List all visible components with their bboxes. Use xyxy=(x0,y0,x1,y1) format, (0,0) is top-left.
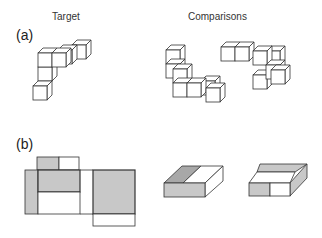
comparison-1-box xyxy=(164,166,223,197)
comparison-2-cube-figure xyxy=(221,42,290,89)
comparison-2-box xyxy=(249,164,307,196)
comparison-1-cube-figure xyxy=(166,45,225,102)
unfolded-net xyxy=(25,157,135,226)
figure-canvas xyxy=(0,0,322,238)
target-cube-figure xyxy=(33,40,91,100)
